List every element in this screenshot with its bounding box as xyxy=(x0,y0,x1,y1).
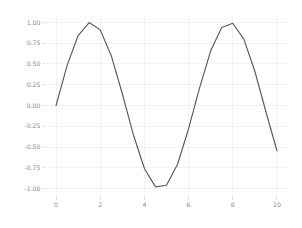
y-tick-label: -1.00 xyxy=(24,185,40,192)
y-tick-label: 1.00 xyxy=(27,19,41,26)
y-tick-labels: 1.000.750.500.250.00-0.25-0.50-0.75-1.00 xyxy=(24,19,40,192)
x-tick-label: 2 xyxy=(98,201,102,208)
y-tick-label: -0.75 xyxy=(24,164,40,171)
x-tick-label: 6 xyxy=(187,201,191,208)
x-tick-label: 0 xyxy=(54,201,58,208)
x-tick-label: 8 xyxy=(231,201,235,208)
line-chart-plot: 1.000.750.500.250.00-0.25-0.50-0.75-1.00… xyxy=(0,0,302,228)
y-tick-label: 0.75 xyxy=(27,39,41,46)
y-tick-label: -0.25 xyxy=(24,122,40,129)
x-tick-label: 4 xyxy=(142,201,146,208)
x-tick-label: 10 xyxy=(273,201,281,208)
chart-figure: 1.000.750.500.250.00-0.25-0.50-0.75-1.00… xyxy=(0,0,302,228)
y-tick-label: 0.00 xyxy=(27,102,41,109)
y-tick-label: -0.50 xyxy=(24,143,40,150)
y-tick-label: 0.25 xyxy=(27,81,41,88)
y-tick-label: 0.50 xyxy=(27,60,41,67)
